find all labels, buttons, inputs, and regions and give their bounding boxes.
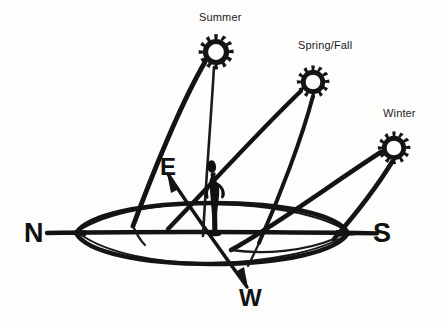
spring-fall-path-setting <box>259 96 313 243</box>
spring-fall-sun-path <box>168 91 313 266</box>
sun-path-diagram: Summer Spring/Fall Winter N S E W <box>0 0 442 327</box>
label-spring-fall: Spring/Fall <box>298 40 352 51</box>
label-north: N <box>24 220 44 247</box>
winter-sun <box>378 131 411 164</box>
label-winter: Winter <box>383 108 416 119</box>
label-west: W <box>239 286 262 310</box>
diagram-artwork <box>0 0 442 327</box>
label-summer: Summer <box>199 12 241 23</box>
label-south: S <box>373 220 391 247</box>
summer-path-below-horizon <box>133 226 145 245</box>
label-east: E <box>160 155 176 179</box>
spring-fall-sun <box>297 65 330 98</box>
winter-sun-path <box>231 152 392 252</box>
